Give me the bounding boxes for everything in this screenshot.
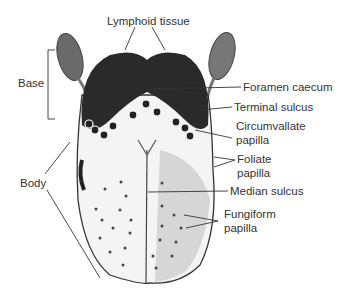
tongue-illustration [0, 0, 352, 296]
label-foliate-papilla: papilla [237, 167, 270, 180]
label-fungiform-papilla: papilla [224, 222, 257, 235]
label-circumvallate: Circumvallate [236, 120, 306, 133]
label-foliate: Foliate [237, 153, 272, 166]
right-tonsil [204, 30, 240, 83]
label-terminal-sulcus: Terminal sulcus [234, 101, 313, 114]
label-circumvallate-papilla: papilla [236, 134, 269, 147]
label-median-sulcus: Median sulcus [230, 185, 304, 198]
label-lymphoid-tissue: Lymphoid tissue [107, 15, 190, 28]
label-fungiform: Fungiform [224, 208, 276, 221]
label-foramen-caecum: Foramen caecum [243, 81, 332, 94]
label-body: Body [20, 177, 46, 190]
label-base: Base [18, 77, 44, 90]
left-tonsil [52, 31, 88, 84]
